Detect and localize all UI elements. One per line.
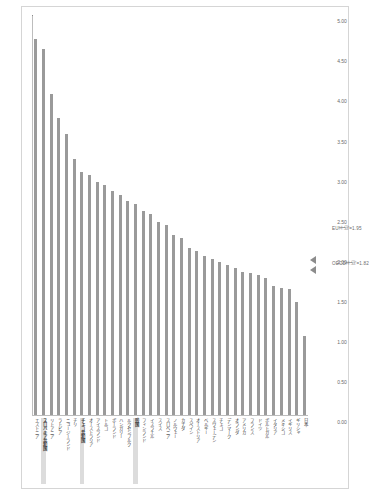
category-label: ベルギー [202,418,206,484]
category-slot: エストニア [32,418,40,484]
category-label: アイスランド [95,418,99,484]
bar [42,49,45,416]
category-slot: ベルギー [201,418,209,484]
bar-slot [185,15,193,416]
bar [234,268,237,416]
category-slot: スペイン [185,418,193,484]
category-slot: イタリア [270,418,278,484]
category-label: デンマーク [225,418,229,484]
category-slot: リトアニア [47,418,55,484]
bar-slot [224,15,232,416]
bar-slot [139,15,147,416]
category-label: フィンランド [141,418,145,484]
category-label: 日本 [302,418,306,484]
bar [226,265,229,416]
bar-slot [63,15,71,416]
bar [149,214,152,416]
bar [288,289,291,416]
axis-tick-label: 0.50 [337,379,347,385]
category-slot: フィンランド [139,418,147,484]
bar-slot [293,15,301,416]
bar [203,256,206,416]
category-slot: アイスランド [93,418,101,484]
bar-slot [86,15,94,416]
bar-slot [132,15,140,416]
bar [50,94,53,416]
category-label: イスラエル [149,418,153,484]
category-slot: フランス [247,418,255,484]
category-slot: ルクセンブルク [124,418,132,484]
bar-slot [93,15,101,416]
bar [165,225,168,416]
axis-tick-label: 4.50 [337,58,347,64]
bar [103,185,106,416]
bar-slot [47,15,55,416]
bar [211,259,214,416]
bar-slot [32,15,40,416]
category-label: ノルウェー [172,418,176,484]
bar [73,159,76,416]
category-label: ポーランド [110,418,114,484]
category-slot: スイス [155,418,163,484]
category-slot: ポーランド [109,418,117,484]
bar-slot [170,15,178,416]
bar-slot [239,15,247,416]
bar [134,204,137,416]
axis-tick-label: 1.00 [337,339,347,345]
bar-slot [270,15,278,416]
category-label: エストニア [34,418,38,484]
bar [96,182,99,416]
category-slot: スロバキア共和国 [40,418,48,484]
bar [157,222,160,416]
category-slot: ギリシャ [293,418,301,484]
category-label: スイス [156,418,160,484]
category-label: スウェーデン [210,418,214,484]
category-label: オランダ [233,418,237,484]
axis-tick-label: 0.00 [337,419,347,425]
bar [111,191,114,416]
category-label: ギリシャ [294,418,298,484]
category-slot: ノルウェー [170,418,178,484]
category-label: リトアニア [49,418,53,484]
chart-frame: EU平均=1.95OECD平均=1.82 0.000.501.001.502.0… [21,6,349,489]
category-slot: メキシコ [278,418,286,484]
category-label: ポルトガル [264,418,268,484]
bar [218,262,221,416]
bar-slot [70,15,78,416]
bar-slot [216,15,224,416]
category-slot: ハンガリー [116,418,124,484]
category-label: ラトビア [57,418,61,484]
bar-slot [231,15,239,416]
category-label: 韓国 [133,418,137,484]
category-label: チリ [72,418,76,484]
bar [272,286,275,416]
bar-slot [201,15,209,416]
bar-slot [109,15,117,416]
bar-slot [262,15,270,416]
bar [119,195,122,416]
category-slot: チリ [70,418,78,484]
category-label: ハンガリー [118,418,122,484]
bar-slot [285,15,293,416]
category-slot: チェコ [216,418,224,484]
category-label: フランス [248,418,252,484]
category-slot: オランダ [231,418,239,484]
category-slot: デンマーク [224,418,232,484]
bar [295,302,298,416]
category-slot: オーストラリア [86,418,94,484]
bar-slot [116,15,124,416]
bar [65,134,68,416]
axis-tick-label: 3.50 [337,138,347,144]
bar-slot [162,15,170,416]
category-slot: スロベニア [162,418,170,484]
category-label: オーストラリア [87,418,91,484]
category-slot: ラトビア [55,418,63,484]
bar [280,288,283,416]
category-label: カナダ [179,418,183,484]
value-axis: 0.000.501.001.502.002.503.003.504.004.50… [310,15,344,416]
category-slot: ニュージーランド [63,418,71,484]
bar [195,251,198,416]
bar [180,238,183,416]
category-slot: ドイツ [254,418,262,484]
axis-tick-label: 3.00 [337,179,347,185]
